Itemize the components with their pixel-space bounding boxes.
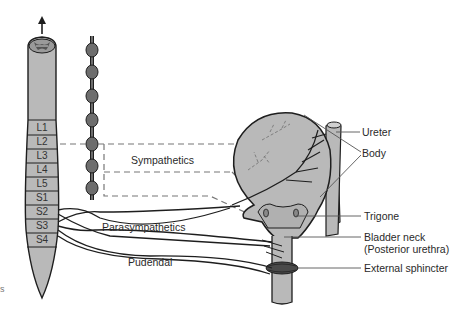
trigone-label: Trigone xyxy=(364,210,399,222)
spinal-cross-section-icon xyxy=(29,39,55,53)
segment-L3: L3 xyxy=(22,149,62,163)
segment-L2: L2 xyxy=(22,135,62,149)
body-label: Body xyxy=(362,147,386,159)
parasympathetics-label: Parasympathetics xyxy=(102,221,185,233)
segment-L4: L4 xyxy=(22,163,62,177)
segment-L1: L1 xyxy=(22,121,62,135)
bladder-innervation-diagram: L1 L2 L3 L4 L5 S1 S2 S3 S4 Sympathetics … xyxy=(0,0,459,315)
segment-L5: L5 xyxy=(22,177,62,191)
pudendal-label: Pudendal xyxy=(128,256,172,268)
sympathetic-chain xyxy=(86,36,98,200)
bladder-neck-label: Bladder neck xyxy=(364,231,425,243)
segment-S4: S4 xyxy=(22,233,62,247)
segment-S2: S2 xyxy=(22,205,62,219)
segment-S1: S1 xyxy=(22,191,62,205)
segment-S3: S3 xyxy=(22,219,62,233)
posterior-urethra-label: (Posterior urethra) xyxy=(364,243,449,255)
up-arrow-icon xyxy=(38,16,46,34)
sympathetics-label: Sympathetics xyxy=(131,154,194,166)
cropped-edge-text: s xyxy=(0,283,5,295)
ureter-label: Ureter xyxy=(362,126,391,138)
ureter-opening xyxy=(327,122,341,128)
external-sphincter-label: External sphincter xyxy=(364,262,448,274)
